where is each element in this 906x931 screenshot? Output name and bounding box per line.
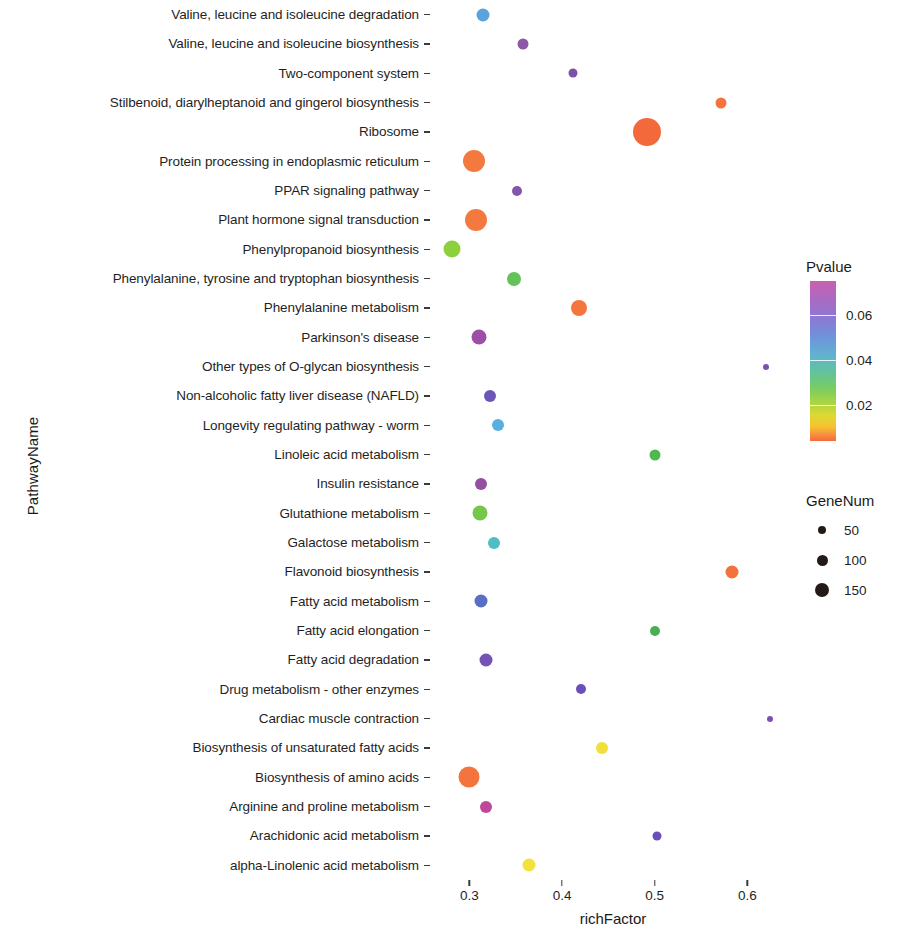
- bubble-point[interactable]: [507, 272, 521, 286]
- bubble-point[interactable]: [463, 150, 485, 172]
- y-tick-label: Plant hormone signal transduction: [218, 213, 419, 227]
- bubble-point[interactable]: [633, 118, 661, 146]
- x-tick-mark: [561, 880, 562, 886]
- y-tick-mark: [424, 307, 430, 308]
- bubble-point[interactable]: [488, 537, 500, 549]
- x-tick-mark: [654, 880, 655, 886]
- y-tick-mark: [424, 659, 430, 660]
- y-tick-label: Protein processing in endoplasmic reticu…: [159, 155, 419, 169]
- y-tick-label: Arachidonic acid metabolism: [250, 829, 419, 843]
- y-tick-2: Two-component system: [18, 65, 430, 81]
- bubble-point[interactable]: [475, 478, 487, 490]
- x-tick-label: 0.3: [460, 888, 479, 903]
- bubble-point[interactable]: [571, 300, 587, 316]
- bubble-point[interactable]: [569, 69, 578, 78]
- size-legend-dot: [817, 555, 828, 566]
- legend-pvalue: Pvalue 0.020.040.06: [806, 258, 906, 441]
- y-tick-mark: [424, 102, 430, 103]
- y-tick-mark: [424, 131, 430, 132]
- y-tick-mark: [424, 777, 430, 778]
- y-tick-4: Ribosome: [18, 124, 430, 140]
- bubble-point[interactable]: [653, 832, 662, 841]
- y-tick-mark: [424, 395, 430, 396]
- y-tick-mark: [424, 718, 430, 719]
- y-tick-7: Plant hormone signal transduction: [18, 212, 430, 228]
- y-tick-25: Biosynthesis of unsaturated fatty acids: [18, 740, 430, 756]
- x-tick-label: 0.6: [738, 888, 757, 903]
- y-tick-11: Parkinson's disease: [18, 329, 430, 345]
- y-tick-24: Cardiac muscle contraction: [18, 711, 430, 727]
- bubble-point[interactable]: [492, 419, 504, 431]
- y-tick-mark: [424, 278, 430, 279]
- y-tick-mark: [424, 425, 430, 426]
- y-tick-label: Fatty acid degradation: [288, 653, 419, 667]
- size-legend-dot: [815, 583, 829, 597]
- bubble-point[interactable]: [763, 364, 769, 370]
- y-tick-label: Parkinson's disease: [301, 331, 419, 345]
- bubble-point[interactable]: [477, 8, 490, 21]
- y-tick-6: PPAR signaling pathway: [18, 183, 430, 199]
- size-legend-row: 100: [806, 545, 906, 575]
- y-tick-mark: [424, 630, 430, 631]
- x-tick-label: 0.5: [645, 888, 664, 903]
- y-tick-8: Phenylpropanoid biosynthesis: [18, 241, 430, 257]
- bubble-point[interactable]: [518, 39, 529, 50]
- y-tick-label: Fatty acid elongation: [297, 624, 419, 638]
- bubble-plot: PathwayName Valine, leucine and isoleuci…: [0, 0, 906, 931]
- y-tick-19: Flavonoid biosynthesis: [18, 564, 430, 580]
- bubble-point[interactable]: [480, 801, 492, 813]
- y-tick-mark: [424, 249, 430, 250]
- y-tick-label: Arginine and proline metabolism: [229, 800, 419, 814]
- y-tick-16: Insulin resistance: [18, 476, 430, 492]
- y-tick-17: Glutathione metabolism: [18, 505, 430, 521]
- y-tick-label: Galactose metabolism: [287, 536, 419, 550]
- legend-genenum: GeneNum 50100150: [806, 492, 906, 605]
- bubble-point[interactable]: [767, 716, 773, 722]
- bubble-point[interactable]: [649, 449, 660, 460]
- bubble-point[interactable]: [716, 97, 727, 108]
- bubble-point[interactable]: [596, 742, 608, 754]
- bubble-point[interactable]: [484, 390, 496, 402]
- bubble-point[interactable]: [480, 654, 493, 667]
- plot-panel: [437, 0, 789, 880]
- colorbar-tick-mark: [810, 405, 836, 407]
- y-tick-label: Linoleic acid metabolism: [274, 448, 419, 462]
- y-tick-1: Valine, leucine and isoleucine biosynthe…: [18, 36, 430, 52]
- bubble-point[interactable]: [512, 186, 522, 196]
- size-legend-label: 50: [844, 523, 859, 538]
- size-legend-dot-cell: [806, 555, 838, 566]
- colorbar-tick-label: 0.02: [846, 397, 872, 412]
- bubble-point[interactable]: [465, 209, 487, 231]
- y-tick-label: Cardiac muscle contraction: [259, 712, 419, 726]
- y-tick-5: Protein processing in endoplasmic reticu…: [18, 153, 430, 169]
- x-axis-title: richFactor: [437, 910, 789, 927]
- colorbar-tick-label: 0.04: [846, 352, 872, 367]
- bubble-point[interactable]: [443, 241, 460, 258]
- bubble-point[interactable]: [474, 595, 487, 608]
- size-legend-row: 150: [806, 575, 906, 605]
- x-axis: richFactor 0.30.40.50.6: [437, 880, 789, 931]
- y-tick-mark: [424, 161, 430, 162]
- bubble-point[interactable]: [471, 330, 486, 345]
- size-legend-dot-cell: [806, 583, 838, 597]
- y-tick-29: alpha-Linolenic acid metabolism: [18, 857, 430, 873]
- bubble-point[interactable]: [650, 626, 660, 636]
- y-tick-label: Stilbenoid, diarylheptanoid and gingerol…: [110, 96, 419, 110]
- bubble-point[interactable]: [725, 566, 738, 579]
- legend-genenum-title: GeneNum: [806, 492, 906, 509]
- y-tick-label: Non-alcoholic fatty liver disease (NAFLD…: [176, 389, 419, 403]
- bubble-point[interactable]: [459, 767, 480, 788]
- y-tick-label: Flavonoid biosynthesis: [285, 565, 419, 579]
- y-tick-mark: [424, 689, 430, 690]
- colorbar-tick-label: 0.06: [846, 307, 872, 322]
- y-tick-12: Other types of O-glycan biosynthesis: [18, 359, 430, 375]
- bubble-point[interactable]: [522, 859, 535, 872]
- y-tick-26: Biosynthesis of amino acids: [18, 769, 430, 785]
- y-tick-label: alpha-Linolenic acid metabolism: [230, 859, 419, 873]
- bubble-point[interactable]: [472, 506, 487, 521]
- y-tick-mark: [424, 806, 430, 807]
- y-tick-27: Arginine and proline metabolism: [18, 799, 430, 815]
- y-tick-mark: [424, 747, 430, 748]
- x-tick-mark: [747, 880, 748, 886]
- bubble-point[interactable]: [576, 684, 586, 694]
